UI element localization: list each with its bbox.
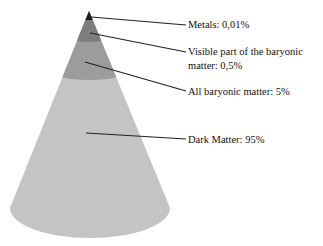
metals-tip — [85, 11, 93, 20]
label-visible-baryonic-line2: matter: 0,5% — [188, 59, 242, 72]
cone — [0, 0, 200, 246]
dark-matter-layer — [0, 0, 200, 246]
visible-baryonic-layer-top — [0, 0, 200, 37]
cone-diagram — [0, 0, 323, 246]
label-visible-baryonic-line1: Visible part of the baryonic — [188, 45, 303, 58]
label-dark-matter: Dark Matter: 95% — [188, 133, 264, 146]
label-baryonic: All baryonic matter: 5% — [188, 85, 290, 98]
leader-metals — [91, 17, 186, 25]
label-metals: Metals: 0,01% — [188, 18, 249, 31]
